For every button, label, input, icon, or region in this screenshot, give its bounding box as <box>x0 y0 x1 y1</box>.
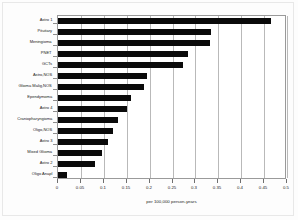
bar-row <box>58 18 287 24</box>
y-axis-tick <box>53 67 57 68</box>
x-axis-tick-labels: 00.050.10.150.20.250.30.350.40.450.5 <box>57 185 286 195</box>
y-axis-label: GCTs <box>42 62 52 66</box>
bar <box>58 62 183 68</box>
y-axis-label: Meningioma <box>30 40 52 44</box>
y-axis-label: Astro 4 <box>39 106 52 110</box>
y-axis-label: Glioma Malig,NOS <box>19 84 52 88</box>
y-axis-label: Pituitary <box>37 29 52 33</box>
y-axis-label: Mixed Glioma <box>27 149 52 153</box>
x-axis-tick <box>172 179 173 183</box>
bar-row <box>58 128 287 134</box>
y-axis-tick <box>53 89 57 90</box>
bar-row <box>58 62 287 68</box>
bar-row <box>58 139 287 145</box>
bar <box>58 73 147 79</box>
bar-row <box>58 84 287 90</box>
bar-row <box>58 73 287 79</box>
x-axis-tick-label: 0.2 <box>146 185 152 190</box>
y-axis-label: Astro,NOS <box>33 73 52 77</box>
bar <box>58 84 144 90</box>
bar <box>58 40 210 46</box>
x-axis-tick <box>240 179 241 183</box>
x-axis-tick-label: 0.15 <box>121 185 129 190</box>
y-axis-tick <box>53 34 57 35</box>
x-axis-tick-label: 0.3 <box>191 185 197 190</box>
x-axis-tick <box>263 179 264 183</box>
y-axis-label: Oligo,NOS <box>33 128 52 132</box>
bar-row <box>58 172 287 178</box>
y-axis-tick <box>53 23 57 24</box>
bar <box>58 18 271 24</box>
x-axis-tick-label: 0.4 <box>237 185 243 190</box>
y-axis-category-labels: Astro 1PituitaryMeningiomaPNETGCTsAstro,… <box>0 15 55 179</box>
x-axis-tick-label: 0 <box>56 185 58 190</box>
x-axis-tick <box>103 179 104 183</box>
y-axis-tick <box>53 155 57 156</box>
x-axis-tick <box>126 179 127 183</box>
bar <box>58 29 211 35</box>
bar-row <box>58 40 287 46</box>
bar <box>58 150 102 156</box>
bar <box>58 139 108 145</box>
x-axis-tick-label: 0.05 <box>76 185 84 190</box>
x-axis-tick <box>57 179 58 183</box>
x-axis-tick <box>286 179 287 183</box>
bar <box>58 161 95 167</box>
y-axis-label: PNET <box>41 51 52 55</box>
y-axis-label: Astro 3 <box>39 138 52 142</box>
y-axis-tick <box>53 122 57 123</box>
y-axis-tick <box>53 45 57 46</box>
plot-area <box>57 15 286 179</box>
y-axis-label: Oligo Anapl <box>31 171 52 175</box>
bar-chart: Astro 1PituitaryMeningiomaPNETGCTsAstro,… <box>0 0 298 220</box>
y-axis-tick <box>53 166 57 167</box>
gridline <box>287 16 288 178</box>
bar-row <box>58 51 287 57</box>
y-axis-label: Craniopharyngioma <box>17 117 52 121</box>
bar <box>58 51 188 57</box>
bar <box>58 172 67 178</box>
x-axis-tick-label: 0.35 <box>213 185 221 190</box>
x-axis-tick-label: 0.45 <box>259 185 267 190</box>
x-axis-title: per 100,000 person-years <box>57 199 286 205</box>
y-axis-label: Astro 1 <box>39 18 52 22</box>
bar-row <box>58 150 287 156</box>
bar-series <box>58 16 285 178</box>
bar <box>58 95 131 101</box>
bar-row <box>58 106 287 112</box>
x-axis-tick <box>149 179 150 183</box>
x-axis-tick-label: 0.1 <box>100 185 106 190</box>
x-axis-tick-label: 0.5 <box>283 185 289 190</box>
bar <box>58 106 127 112</box>
x-axis-tick <box>80 179 81 183</box>
y-axis-tick <box>53 78 57 79</box>
y-axis-tick <box>53 177 57 178</box>
y-axis-tick <box>53 111 57 112</box>
y-axis-label: Ependymoma <box>27 95 52 99</box>
y-axis-tick <box>53 56 57 57</box>
bar-row <box>58 95 287 101</box>
x-axis-tick <box>217 179 218 183</box>
y-axis-label: Astro 2 <box>39 160 52 164</box>
bar-row <box>58 29 287 35</box>
bar-row <box>58 161 287 167</box>
bar-row <box>58 117 287 123</box>
y-axis-tick <box>53 133 57 134</box>
bar <box>58 117 118 123</box>
x-axis-tick-label: 0.25 <box>167 185 175 190</box>
bar <box>58 128 113 134</box>
y-axis-tick <box>53 100 57 101</box>
y-axis-tick <box>53 144 57 145</box>
x-axis-tick <box>194 179 195 183</box>
